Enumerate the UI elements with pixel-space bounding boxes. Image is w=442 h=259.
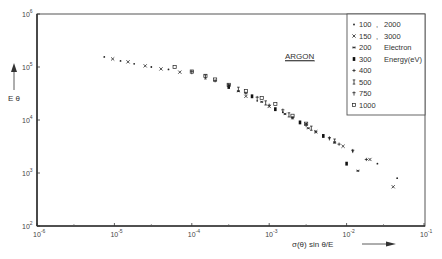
legend-item: 100,2000 [353,20,401,29]
series-750 [190,70,354,153]
series-200 [237,90,360,172]
svg-text:1000: 1000 [359,101,376,110]
svg-text:E θ: E θ [8,94,21,103]
svg-text:3000: 3000 [384,32,401,41]
arrow-right-icon [386,242,396,247]
y-tick-label: 106 [22,8,33,18]
x-tick-label: 10-4 [188,228,200,238]
svg-text:σ(θ) sin θ/E: σ(θ) sin θ/E [292,240,333,249]
svg-text:500: 500 [359,78,372,87]
svg-text:750: 750 [359,89,372,98]
y-tick-label: 103 [22,167,33,177]
svg-text:Energy(eV): Energy(eV) [384,55,422,64]
x-tick-label: 10-3 [265,228,277,238]
legend-item: 300Energy(eV) [353,55,423,64]
y-tick-label: 102 [22,220,33,230]
svg-text:Electron: Electron [384,43,412,52]
svg-text:100: 100 [359,20,372,29]
svg-text:,: , [376,20,378,29]
y-tick-label: 105 [22,61,33,71]
x-axis-title: σ(θ) sin θ/E [292,240,396,249]
x-tick-label: 10-1 [420,228,432,238]
series-3000 [111,57,181,73]
scatter-chart: 102103104105106 10-610-510-410-310-210-1… [0,0,442,259]
svg-text:200: 200 [359,43,372,52]
y-axis-title: E θ [8,63,21,103]
legend-item: 150,3000 [352,32,400,41]
x-tick-label: 10-2 [343,228,355,238]
svg-text:150: 150 [359,32,372,41]
svg-text:300: 300 [359,55,372,64]
series-1000 [173,65,308,125]
svg-text:,: , [376,32,378,41]
argon-annotation: ARGON [285,52,315,61]
x-tick-label: 10-6 [33,228,45,238]
x-tick-label: 10-5 [110,228,122,238]
legend: 100,2000150,3000200Electron300Energy(eV)… [347,14,425,115]
svg-text:400: 400 [359,66,372,75]
svg-text:2000: 2000 [384,20,401,29]
series-400 [213,79,367,161]
y-tick-label: 104 [22,114,33,124]
